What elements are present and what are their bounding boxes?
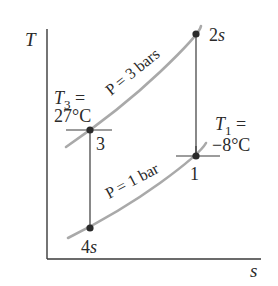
state-2s-label: 2s (209, 25, 225, 45)
t3-annotation-value: 27°C (54, 106, 91, 126)
t1-annotation-value: −8°C (212, 135, 250, 155)
isobar-low-curve (68, 143, 206, 238)
state-1-point (192, 152, 199, 159)
isobar-high-curve (66, 26, 201, 147)
state-2s-point (192, 30, 199, 37)
ts-diagram: T s P = 3 bars P = 1 bar 2s 3 1 4s T3 = … (0, 0, 278, 286)
state-4s-point (86, 224, 93, 231)
isobar-high-label: P = 3 bars (102, 45, 162, 98)
state-3-label: 3 (96, 134, 105, 154)
x-axis-label: s (250, 260, 257, 281)
state-1-label: 1 (190, 164, 199, 184)
state-4s-label: 4s (81, 237, 97, 257)
isobar-low-label: P = 1 bar (102, 159, 162, 201)
y-axis-label: T (25, 29, 37, 50)
state-3-point (86, 126, 93, 133)
